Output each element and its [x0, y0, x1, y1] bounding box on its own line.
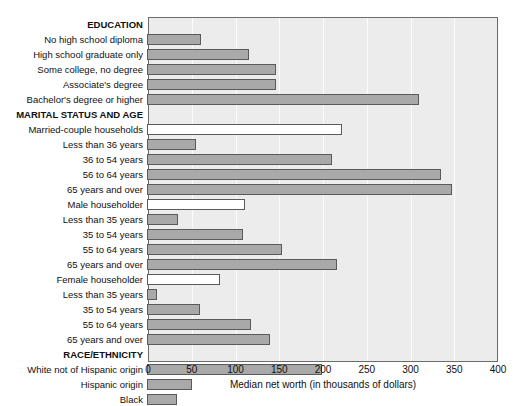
x-axis-tick-labels: 050100150200250300350400 — [148, 364, 498, 378]
bar-cell — [147, 317, 497, 332]
bar-row: Bachelor's degree or higher — [0, 92, 517, 107]
bar-row: Some college, no degree — [0, 62, 517, 77]
bar-cell — [147, 257, 497, 272]
bar-row: Less than 35 years — [0, 287, 517, 302]
bar-row: Black — [0, 392, 517, 406]
row-label: Less than 35 years — [0, 289, 146, 300]
bar — [147, 289, 157, 300]
bar — [147, 124, 342, 135]
group-header-row: MARITAL STATUS AND AGE — [0, 107, 517, 122]
bar — [147, 49, 249, 60]
bar — [147, 169, 441, 180]
row-label: Married-couple households — [0, 124, 146, 135]
bar — [147, 64, 276, 75]
row-label: No high school diploma — [0, 34, 146, 45]
row-label: Less than 35 years — [0, 214, 146, 225]
row-label: 56 to 64 years — [0, 169, 146, 180]
bar-row: 55 to 64 years — [0, 317, 517, 332]
bar-row: No high school diploma — [0, 32, 517, 47]
row-label: White not of Hispanic origin — [0, 364, 146, 375]
row-label: 35 to 54 years — [0, 304, 146, 315]
bar — [147, 139, 196, 150]
bar-row: High school graduate only — [0, 47, 517, 62]
bar-cell — [147, 182, 497, 197]
bar-cell — [147, 122, 497, 137]
bar-cell — [147, 227, 497, 242]
bar — [147, 229, 243, 240]
row-label: Female householder — [0, 274, 146, 285]
x-tick-350: 350 — [446, 364, 463, 375]
bar — [147, 199, 245, 210]
row-label: 55 to 64 years — [0, 244, 146, 255]
bar-cell — [147, 32, 497, 47]
row-label: 65 years and over — [0, 184, 146, 195]
row-label: Less than 36 years — [0, 139, 146, 150]
x-tick-0: 0 — [145, 364, 151, 375]
bar-rows: EDUCATIONNo high school diplomaHigh scho… — [0, 17, 517, 362]
bar-row: Female householder — [0, 272, 517, 287]
bar-row: Associate's degree — [0, 77, 517, 92]
x-tick-300: 300 — [402, 364, 419, 375]
group-header-row: EDUCATION — [0, 17, 517, 32]
bar-cell — [147, 107, 497, 122]
bar-row: 65 years and over — [0, 257, 517, 272]
median-net-worth-bar-chart: EDUCATIONNo high school diplomaHigh scho… — [0, 0, 517, 406]
bar-row: 35 to 54 years — [0, 302, 517, 317]
bar-cell — [147, 167, 497, 182]
bar-cell — [147, 332, 497, 347]
row-label: Bachelor's degree or higher — [0, 94, 146, 105]
bar — [147, 319, 251, 330]
bar-row: Married-couple households — [0, 122, 517, 137]
x-tick-200: 200 — [315, 364, 332, 375]
bar-row: Less than 36 years — [0, 137, 517, 152]
bar-row: 65 years and over — [0, 182, 517, 197]
group-header-row: RACE/ETHNICITY — [0, 347, 517, 362]
bar-cell — [147, 197, 497, 212]
bar-cell — [147, 17, 497, 32]
bar-row: 65 years and over — [0, 332, 517, 347]
bar-cell — [147, 77, 497, 92]
row-label: EDUCATION — [0, 19, 146, 30]
x-axis-title: Median net worth (in thousands of dollar… — [148, 379, 498, 390]
row-label: Black — [0, 394, 146, 405]
row-label: 65 years and over — [0, 259, 146, 270]
bar — [147, 274, 220, 285]
bar — [147, 334, 270, 345]
row-label: 55 to 64 years — [0, 319, 146, 330]
bar-cell — [147, 212, 497, 227]
bar — [147, 94, 419, 105]
row-label: Associate's degree — [0, 79, 146, 90]
row-label: RACE/ETHNICITY — [0, 349, 146, 360]
bar-row: 35 to 54 years — [0, 227, 517, 242]
bar-cell — [147, 347, 497, 362]
bar-cell — [147, 392, 497, 406]
bar-cell — [147, 92, 497, 107]
bar — [147, 214, 178, 225]
x-tick-250: 250 — [358, 364, 375, 375]
bar — [147, 154, 332, 165]
x-tick-100: 100 — [227, 364, 244, 375]
bar-cell — [147, 287, 497, 302]
row-label: 36 to 54 years — [0, 154, 146, 165]
bar — [147, 244, 282, 255]
bar — [147, 304, 200, 315]
row-label: MARITAL STATUS AND AGE — [0, 109, 146, 120]
bar-row: Less than 35 years — [0, 212, 517, 227]
bar-row: 36 to 54 years — [0, 152, 517, 167]
bar-row: Male householder — [0, 197, 517, 212]
row-label: Some college, no degree — [0, 64, 146, 75]
bar-row: 56 to 64 years — [0, 167, 517, 182]
bar-cell — [147, 152, 497, 167]
bar-row: 55 to 64 years — [0, 242, 517, 257]
bar-cell — [147, 137, 497, 152]
row-label: High school graduate only — [0, 49, 146, 60]
row-label: 35 to 54 years — [0, 229, 146, 240]
bar — [147, 79, 276, 90]
bar — [147, 394, 177, 405]
row-label: Male householder — [0, 199, 146, 210]
bar-cell — [147, 62, 497, 77]
bar — [147, 184, 452, 195]
bar-cell — [147, 272, 497, 287]
bar — [147, 34, 201, 45]
bar-cell — [147, 242, 497, 257]
